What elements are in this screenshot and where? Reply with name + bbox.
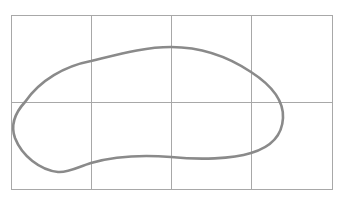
- closed-curve: [13, 47, 283, 172]
- diagram-canvas: [0, 0, 342, 203]
- grid-with-closed-curve: [0, 0, 342, 203]
- grid: [11, 15, 333, 190]
